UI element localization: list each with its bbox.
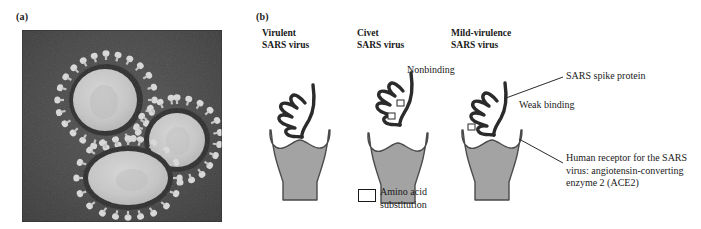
annotation-sars-spike-protein: SARS spike protein	[566, 70, 645, 83]
sars-spike-protein-shape	[279, 85, 314, 137]
legend-substitution-swatch	[358, 189, 376, 202]
amino-acid-substitution-marker	[468, 124, 475, 130]
amino-acid-substitution-marker	[397, 100, 404, 106]
annotation-human-receptor-ace2: Human receptor for the SARS virus: angio…	[566, 152, 698, 190]
diagram-virulent	[270, 85, 330, 200]
leader-line-receptor	[519, 139, 563, 163]
annotation-nonbinding: Nonbinding	[407, 64, 455, 77]
legend-substitution-label: Amino acid substitution	[380, 186, 470, 211]
diagram-civet	[368, 73, 428, 203]
leader-line-spike-protein	[506, 77, 563, 98]
ace2-receptor-shape	[270, 130, 330, 200]
ace2-receptor-shape	[462, 130, 522, 200]
diagram-mild-virulence	[462, 83, 522, 200]
annotation-weak-binding: Weak binding	[519, 99, 575, 112]
figure-root: (a)	[0, 0, 701, 229]
binding-diagrams	[0, 0, 701, 229]
sars-spike-protein-shape	[471, 83, 506, 135]
amino-acid-substitution-marker	[388, 113, 395, 119]
